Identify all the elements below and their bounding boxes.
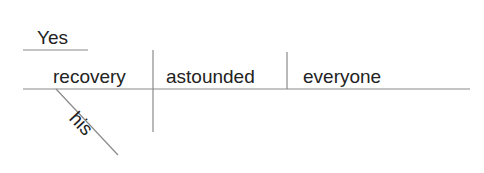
object-word: everyone (303, 67, 381, 86)
verb-word: astounded (166, 67, 255, 86)
subject-word: recovery (53, 67, 126, 86)
interjection-word: Yes (37, 28, 68, 47)
